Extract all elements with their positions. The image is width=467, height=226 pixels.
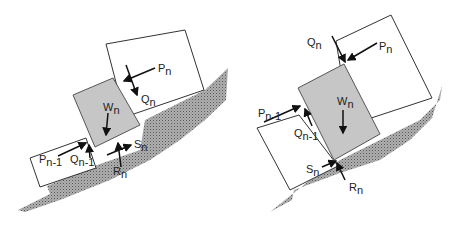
left-panel: Pn Qn Wn Pn-1 Qn-1 Sn Rn <box>18 30 228 212</box>
right-panel: Qn Pn Wn Pn-1 Qn-1 Sn Rn <box>257 15 442 212</box>
label-rn-right: Rn <box>349 181 363 196</box>
label-qn-right: Qn <box>307 36 322 51</box>
label-pn1-right: Pn-1 <box>258 107 281 122</box>
label-rn: Rn <box>113 165 127 180</box>
label-sn: Sn <box>134 138 147 153</box>
diagram-canvas: Pn Qn Wn Pn-1 Qn-1 Sn Rn Qn Pn Wn Pn-1 Q… <box>0 0 467 226</box>
